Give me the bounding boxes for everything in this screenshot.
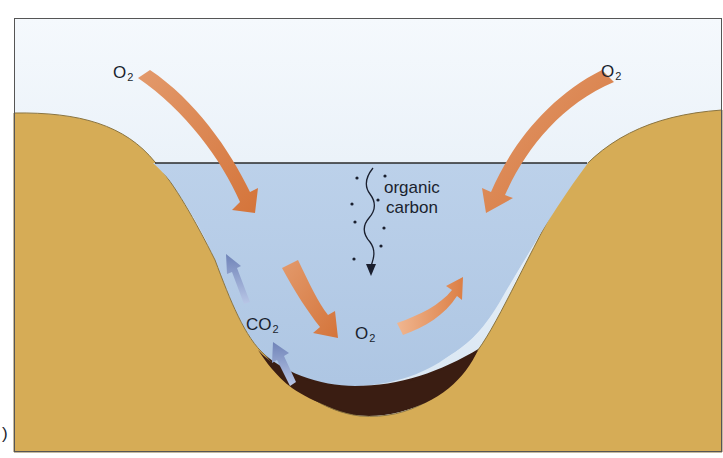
organic-carbon-line1: organic <box>384 178 440 198</box>
o2-label-base: O <box>113 63 126 82</box>
o2-label-center: O2 <box>355 325 375 344</box>
co2-label-subscript: 2 <box>273 323 279 335</box>
o2-label-top-left: O2 <box>113 64 133 83</box>
o2-label-base: O <box>601 62 614 81</box>
co2-label: CO2 <box>246 316 279 335</box>
o2-label-base: O <box>355 324 368 343</box>
o2-label-top-right: O2 <box>601 63 621 82</box>
organic-carbon-label: organic carbon <box>384 178 440 218</box>
panel-marker: ) <box>2 424 8 444</box>
organic-carbon-line2: carbon <box>384 198 440 218</box>
o2-label-subscript: 2 <box>369 332 375 344</box>
o2-label-subscript: 2 <box>615 70 621 82</box>
co2-label-base: CO <box>246 315 272 334</box>
o2-label-subscript: 2 <box>127 71 133 83</box>
